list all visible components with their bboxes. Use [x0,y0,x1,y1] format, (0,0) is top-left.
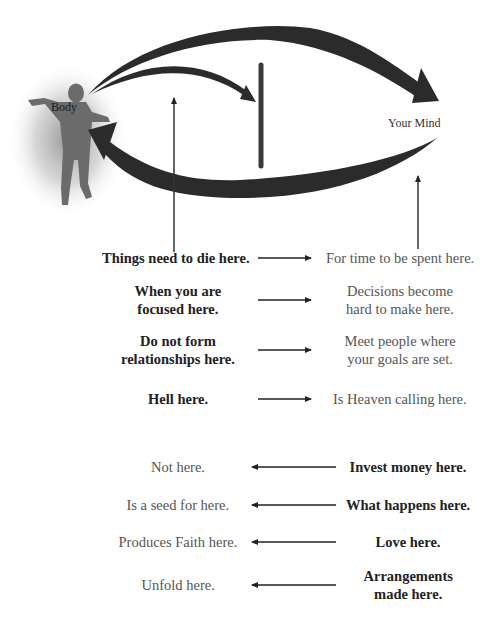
forward-row-right-text: Is Heaven calling here. [333,390,467,408]
forward-row-right-text: Decisions become hard to make here. [346,282,454,318]
reverse-row-left-text: Is a seed for here. [127,496,230,514]
reverse-row-right-text: Invest money here. [350,458,467,476]
forward-row-left-text: Hell here. [148,390,208,408]
bottom-arc-arrow [100,138,437,198]
mind-label: Your Mind [388,116,440,131]
inner-arc-arrowhead [240,85,256,102]
reverse-row-right-text: Arrangements made here. [364,567,453,603]
forward-row-left-text: When you are focused here. [135,282,222,318]
reverse-row-right-text: Love here. [376,533,441,551]
reverse-row-left-text: Not here. [151,458,205,476]
body-label: Body [51,100,77,115]
reverse-row-left-text: Unfold here. [142,576,215,594]
reverse-row-left-text: Produces Faith here. [119,533,238,551]
reverse-row-right-text: What happens here. [346,496,470,514]
forward-row-right-text: Meet people where your goals are set. [345,332,456,368]
forward-row-left-text: Things need to die here. [102,249,250,267]
forward-row-right-text: For time to be spent here. [326,249,474,267]
forward-row-left-text: Do not form relationships here. [121,332,235,368]
